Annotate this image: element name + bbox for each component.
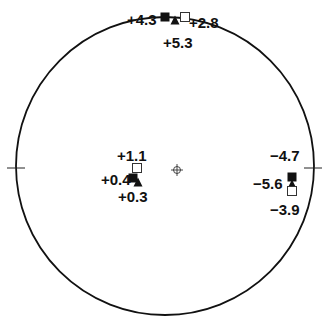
cluster-right: −4.7−5.6−3.9 [253, 147, 300, 218]
polar-diagram: +4.3+2.8+5.3+1.1+0.4+0.3−4.7−5.6−3.9 [0, 0, 330, 335]
crosshair-circle-icon [171, 164, 183, 176]
value-label: +4.3 [127, 11, 157, 28]
value-label: −4.7 [270, 147, 300, 164]
value-label: −3.9 [270, 201, 300, 218]
value-label: +5.3 [163, 34, 193, 51]
value-label: +0.4 [101, 171, 131, 188]
value-label: +2.8 [189, 14, 219, 31]
cluster-left: +1.1+0.4+0.3 [101, 147, 148, 205]
open-square-marker [133, 164, 142, 173]
open-square-marker [288, 187, 297, 196]
outer-circle [16, 17, 314, 315]
value-label: +1.1 [117, 147, 147, 164]
value-label: −5.6 [253, 175, 283, 192]
value-label: +0.3 [118, 188, 148, 205]
data-clusters: +4.3+2.8+5.3+1.1+0.4+0.3−4.7−5.6−3.9 [101, 11, 300, 218]
filled-square-marker [161, 13, 170, 22]
